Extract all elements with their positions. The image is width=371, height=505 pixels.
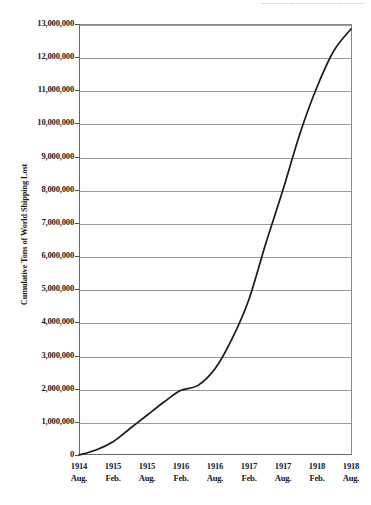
x-tick-year: 1915 (96, 461, 130, 473)
x-tick-label: 1918Aug. (334, 461, 368, 484)
x-tick-label: 1916Feb. (164, 461, 198, 484)
y-tick-label: 2,000,000 (41, 383, 74, 393)
x-tick-year: 1915 (130, 461, 164, 473)
x-tick-label: 1917Aug. (266, 461, 300, 484)
x-tick-year: 1918 (334, 461, 368, 473)
x-tick-year: 1916 (198, 461, 232, 473)
cropped-header-text: ——————————————— (150, 0, 365, 7)
y-tick-label: 8,000,000 (41, 184, 74, 194)
y-tick-label: 5,000,000 (41, 283, 74, 293)
x-tick-year: 1916 (164, 461, 198, 473)
x-tick-label: 1914Aug. (62, 461, 96, 484)
y-tick-label: 7,000,000 (41, 217, 74, 227)
x-tick-month: Feb. (96, 473, 130, 485)
y-tick-label: 12,000,000 (37, 51, 74, 61)
y-tick-label: 0 (70, 449, 74, 459)
y-tick-label: 4,000,000 (41, 316, 74, 326)
x-tick-label: 1916Aug. (198, 461, 232, 484)
x-tick-month: Feb. (164, 473, 198, 485)
y-tick-label: 6,000,000 (41, 250, 74, 260)
y-axis-title: Cumulative Tons of World Shipping Lost (20, 135, 29, 335)
x-tick-label: 1918Feb. (300, 461, 334, 484)
x-tick-year: 1917 (266, 461, 300, 473)
y-tick-label: 3,000,000 (41, 350, 74, 360)
chart-figure: ——————————————— Cumulative Tons of World… (0, 0, 371, 505)
x-tick-month: Feb. (232, 473, 266, 485)
x-tick-year: 1918 (300, 461, 334, 473)
x-tick-month: Aug. (198, 473, 232, 485)
y-tick-label: 13,000,000 (37, 18, 74, 28)
x-tick-label: 1915Feb. (96, 461, 130, 484)
x-tick-month: Aug. (62, 473, 96, 485)
x-tick-month: Aug. (266, 473, 300, 485)
x-tick-year: 1914 (62, 461, 96, 473)
y-tick-label: 9,000,000 (41, 151, 74, 161)
data-series-line (79, 24, 352, 455)
y-tick-label: 11,000,000 (38, 84, 74, 94)
x-tick-month: Aug. (130, 473, 164, 485)
x-tick-label: 1915Aug. (130, 461, 164, 484)
x-tick-month: Aug. (334, 473, 368, 485)
cumulative-losses-curve (79, 29, 351, 455)
x-tick-label: 1917Feb. (232, 461, 266, 484)
x-tick-month: Feb. (300, 473, 334, 485)
y-tick-label: 10,000,000 (37, 117, 74, 127)
x-tick-year: 1917 (232, 461, 266, 473)
y-tick-label: 1,000,000 (41, 416, 74, 426)
